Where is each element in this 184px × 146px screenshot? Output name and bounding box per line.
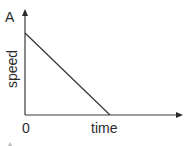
panel-label: A bbox=[5, 10, 14, 24]
origin-label: 0 bbox=[22, 121, 30, 135]
partial-arrow-icon bbox=[8, 142, 12, 146]
y-axis-arrow-icon bbox=[22, 9, 28, 16]
speed-line bbox=[25, 33, 110, 115]
y-axis-label: speed bbox=[5, 50, 19, 88]
x-axis-arrow-icon bbox=[176, 112, 183, 118]
x-axis-label: time bbox=[91, 121, 117, 135]
